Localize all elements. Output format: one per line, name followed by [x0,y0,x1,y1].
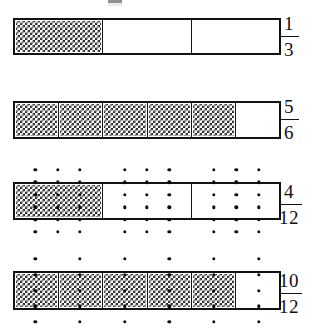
subdivision-dot [123,320,126,323]
subdivision-dot [212,230,215,233]
bar-segment-shaded [15,273,59,308]
subdivision-dot [145,168,148,171]
fraction-bar [13,271,281,310]
subdivision-dot [56,168,59,171]
fraction-bars-figure: 13564121012 [0,0,317,335]
bar-segment-empty [236,273,279,308]
fraction-bar-rule [279,119,299,121]
fraction-bar [13,182,281,220]
bar-segment-shaded [148,103,192,137]
fraction-bar-rule [279,36,299,38]
subdivision-dot [145,230,148,233]
bar-segment-shaded [192,103,236,137]
subdivision-dot [257,257,260,260]
subdivision-dot [34,320,37,323]
subdivision-dot [257,230,260,233]
bar-segment-shaded [15,20,103,53]
subdivision-dot [168,230,171,233]
bar-segment-shaded [148,273,192,308]
subdivision-dot [123,257,126,260]
subdivision-dot [78,168,81,171]
subdivision-dot [78,230,81,233]
bar-segment-shaded [15,184,103,218]
bar-segment-empty [192,184,279,218]
subdivision-dot [212,257,215,260]
bar-segment-shaded [59,273,103,308]
bar-segment-shaded [103,103,147,137]
subdivision-dot [56,230,59,233]
subdivision-dot [168,168,171,171]
subdivision-dot [123,230,126,233]
bar-segment-empty [192,20,279,53]
bar-segment-shaded [192,273,236,308]
subdivision-dot [257,320,260,323]
subdivision-dot [168,320,171,323]
bar-segment-empty [236,103,279,137]
bar-segment-empty [103,184,191,218]
subdivision-dot [78,320,81,323]
cropped-text-artifact [108,0,122,6]
subdivision-dot [212,320,215,323]
subdivision-dot [235,168,238,171]
subdivision-dot [34,257,37,260]
subdivision-dot [235,230,238,233]
subdivision-dot [212,168,215,171]
bar-segment-shaded [15,103,59,137]
subdivision-dot [168,257,171,260]
subdivision-dot [34,230,37,233]
bar-segment-shaded [59,103,103,137]
bar-segment-empty [103,20,191,53]
subdivision-dot [123,168,126,171]
bar-segment-shaded [103,273,147,308]
fraction-bar [13,101,281,139]
subdivision-dot [78,257,81,260]
subdivision-dot [257,168,260,171]
fraction-bar [13,18,281,55]
subdivision-dot [34,168,37,171]
